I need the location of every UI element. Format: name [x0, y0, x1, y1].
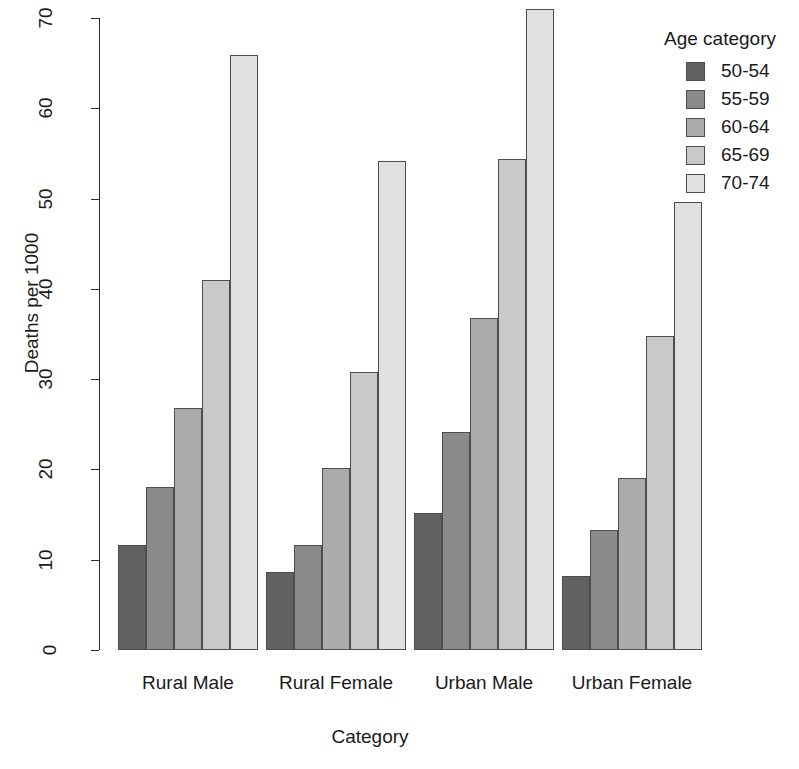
- y-axis-tick-label: 60: [0, 97, 56, 119]
- bar[interactable]: [266, 572, 294, 650]
- bar-group: [266, 18, 406, 650]
- legend-item[interactable]: 55-59: [686, 88, 776, 110]
- legend-items: 50-5455-5960-6465-6970-74: [664, 60, 776, 194]
- bar-group: [118, 18, 258, 650]
- y-axis-tick: [91, 289, 99, 290]
- legend-swatch: [686, 118, 705, 137]
- legend-swatch: [686, 62, 705, 81]
- legend-title: Age category: [664, 28, 776, 50]
- y-axis-tick: [91, 18, 99, 19]
- bar[interactable]: [498, 159, 526, 650]
- bar-group: [414, 18, 554, 650]
- bar[interactable]: [350, 372, 378, 650]
- bar[interactable]: [590, 530, 618, 650]
- bar[interactable]: [470, 318, 498, 650]
- bar[interactable]: [294, 545, 322, 650]
- legend-item[interactable]: 50-54: [686, 60, 776, 82]
- bar[interactable]: [442, 432, 470, 650]
- legend-item-label: 55-59: [721, 88, 770, 110]
- legend-item-label: 65-69: [721, 144, 770, 166]
- y-axis-tick: [91, 108, 99, 109]
- bar[interactable]: [378, 161, 406, 650]
- bar[interactable]: [322, 468, 350, 650]
- legend-swatch: [686, 90, 705, 109]
- legend-item[interactable]: 65-69: [686, 144, 776, 166]
- bar[interactable]: [674, 202, 702, 650]
- y-axis-tick: [91, 199, 99, 200]
- bar[interactable]: [146, 487, 174, 650]
- bar[interactable]: [414, 513, 442, 650]
- legend-item[interactable]: 60-64: [686, 116, 776, 138]
- x-axis-category-label: Urban Female: [532, 672, 732, 694]
- y-axis-tick-label: 10: [0, 549, 56, 571]
- y-axis-tick-label: 0: [0, 639, 56, 661]
- y-axis-tick: [91, 469, 99, 470]
- legend-item-label: 50-54: [721, 60, 770, 82]
- bar[interactable]: [646, 336, 674, 650]
- bar[interactable]: [118, 545, 146, 650]
- y-axis-tick: [91, 650, 99, 651]
- legend-item-label: 60-64: [721, 116, 770, 138]
- bar[interactable]: [230, 55, 258, 650]
- y-axis-tick: [91, 560, 99, 561]
- y-axis-tick-label: 20: [0, 458, 56, 480]
- y-axis-tick-label-text: 70: [34, 7, 56, 28]
- y-axis-title: Deaths per 1000: [21, 153, 43, 453]
- legend-swatch: [686, 174, 705, 193]
- y-axis-tick-label-text: 0: [40, 645, 62, 656]
- y-axis-tick: [91, 379, 99, 380]
- bar[interactable]: [526, 9, 554, 650]
- y-axis-tick-label-text: 20: [34, 459, 56, 480]
- y-axis-tick-label-text: 10: [34, 549, 56, 570]
- x-axis-title: Category: [0, 726, 740, 748]
- bar-chart: 010203040506070 Deaths per 1000 Rural Ma…: [0, 0, 799, 769]
- bar[interactable]: [562, 576, 590, 650]
- y-axis-tick-label-text: 60: [34, 98, 56, 119]
- y-axis-tick-label: 70: [0, 7, 56, 29]
- y-axis-line: [99, 18, 100, 650]
- bar[interactable]: [174, 408, 202, 650]
- legend-swatch: [686, 146, 705, 165]
- legend: Age category 50-5455-5960-6465-6970-74: [664, 28, 776, 200]
- legend-item-label: 70-74: [721, 172, 770, 194]
- legend-item[interactable]: 70-74: [686, 172, 776, 194]
- bar[interactable]: [202, 280, 230, 650]
- bar[interactable]: [618, 478, 646, 650]
